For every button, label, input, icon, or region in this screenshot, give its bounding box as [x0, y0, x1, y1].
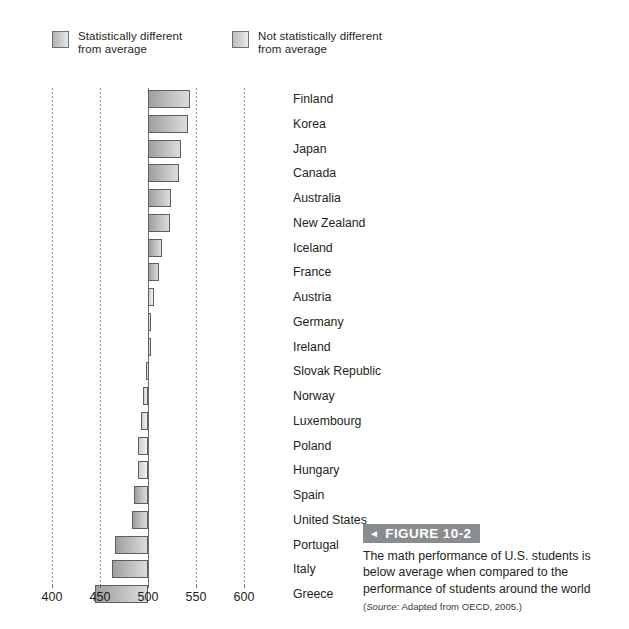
- bar-canada: [148, 164, 179, 182]
- bar-luxembourg: [141, 412, 148, 430]
- category-label-norway: Norway: [293, 389, 335, 403]
- category-label-canada: Canada: [293, 166, 336, 180]
- bar-hungary: [138, 461, 148, 479]
- tick-mark-450: [100, 584, 101, 588]
- figure-caption-source: (Source: Adapted from OECD, 2005.): [363, 601, 611, 612]
- x-tick-label-500: 500: [138, 590, 159, 604]
- category-label-france: France: [293, 265, 331, 279]
- bar-new-zealand: [148, 214, 170, 232]
- figure-caption-header: ◄FIGURE 10-2: [363, 524, 480, 543]
- category-label-japan: Japan: [293, 142, 327, 156]
- bar-germany: [148, 313, 151, 331]
- bar-japan: [148, 140, 181, 158]
- bar-norway: [143, 387, 148, 405]
- bar-iceland: [148, 239, 162, 257]
- tick-mark-550: [196, 584, 197, 588]
- x-tick-label-400: 400: [42, 590, 63, 604]
- category-label-ireland: Ireland: [293, 340, 331, 354]
- x-tick-label-550: 550: [186, 590, 207, 604]
- tick-mark-600: [244, 584, 245, 588]
- gridline-600: [244, 88, 245, 584]
- category-label-poland: Poland: [293, 439, 331, 453]
- figure-number-label: FIGURE 10-2: [385, 526, 471, 541]
- category-label-austria: Austria: [293, 290, 331, 304]
- bar-slovak-republic: [146, 362, 149, 380]
- category-label-italy: Italy: [293, 562, 316, 576]
- bar-france: [148, 263, 159, 281]
- source-text: Adapted from OECD, 2005.): [399, 601, 522, 612]
- bar-austria: [148, 288, 154, 306]
- tick-mark-400: [52, 584, 53, 588]
- category-label-slovak-republic: Slovak Republic: [293, 364, 381, 378]
- gridline-500: [148, 88, 149, 584]
- category-label-korea: Korea: [293, 117, 326, 131]
- category-label-new-zealand: New Zealand: [293, 216, 365, 230]
- bar-united-states: [132, 511, 148, 529]
- bar-spain: [134, 486, 148, 504]
- gridline-550: [196, 88, 197, 584]
- bar-portugal: [115, 536, 148, 554]
- category-label-germany: Germany: [293, 315, 344, 329]
- figure-caption-body: The math performance of U.S. students is…: [363, 548, 611, 597]
- category-label-luxembourg: Luxembourg: [293, 414, 361, 428]
- figure-caption: ◄FIGURE 10-2 The math performance of U.S…: [363, 524, 611, 612]
- bar-korea: [148, 115, 188, 133]
- category-label-hungary: Hungary: [293, 463, 339, 477]
- category-label-australia: Australia: [293, 191, 341, 205]
- x-tick-label-450: 450: [90, 590, 111, 604]
- bar-finland: [148, 90, 190, 108]
- gridline-400: [52, 88, 53, 584]
- category-label-spain: Spain: [293, 488, 324, 502]
- category-label-portugal: Portugal: [293, 538, 339, 552]
- category-label-iceland: Iceland: [293, 241, 333, 255]
- x-tick-label-600: 600: [234, 590, 255, 604]
- bar-poland: [138, 437, 148, 455]
- bar-ireland: [148, 338, 151, 356]
- gridline-450: [100, 88, 101, 584]
- category-label-finland: Finland: [293, 92, 333, 106]
- tick-mark-500: [148, 584, 149, 588]
- source-label: Source:: [366, 601, 399, 612]
- category-label-greece: Greece: [293, 587, 333, 601]
- category-label-united-states: United States: [293, 513, 367, 527]
- left-triangle-icon: ◄: [369, 528, 379, 539]
- bar-australia: [148, 189, 171, 207]
- bar-italy: [112, 560, 148, 578]
